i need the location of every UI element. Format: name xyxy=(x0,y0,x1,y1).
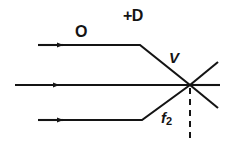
lens-power-label: +D xyxy=(123,8,143,24)
upper-emergent-ray xyxy=(190,85,218,108)
lower-emergent-ray xyxy=(190,62,218,85)
ray-diagram: +D O V f2 xyxy=(0,0,230,152)
focal-length-subscript: 2 xyxy=(166,115,172,127)
object-label: O xyxy=(75,24,87,40)
upper-ray-path xyxy=(38,45,190,85)
vergence-label: V xyxy=(169,50,179,65)
ray-diagram-canvas xyxy=(0,0,230,152)
focal-length-label: f2 xyxy=(161,110,172,127)
